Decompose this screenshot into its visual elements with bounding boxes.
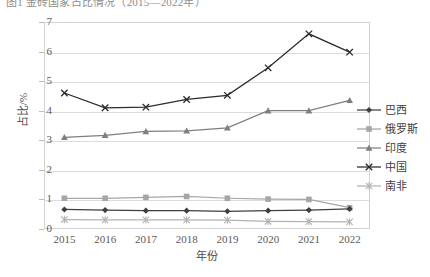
x-axis-tick-label: 2018 (165, 233, 209, 245)
data-point-cross (346, 49, 352, 55)
legend-swatch-asterisk (356, 179, 382, 193)
data-point-triangle (346, 97, 353, 103)
legend-swatch-square (356, 122, 382, 136)
data-point-square (143, 195, 149, 201)
legend: 巴西俄罗斯印度中国南非 (356, 100, 430, 195)
legend-item-巴西[interactable]: 巴西 (356, 100, 430, 119)
legend-item-中国[interactable]: 中国 (356, 157, 430, 176)
data-point-diamond (102, 207, 108, 213)
y-axis-tick-mark (39, 229, 44, 230)
x-axis-tick-label: 2016 (83, 233, 127, 245)
x-axis-tick-label: 2019 (205, 233, 249, 245)
data-point-square (225, 195, 231, 201)
chart-container: 图1 金砖国家占比情况（2015—2022年） 01234567 2015201… (0, 0, 430, 277)
x-axis-tick-label: 2015 (42, 233, 86, 245)
series-南非 (61, 216, 353, 226)
data-point-diamond (184, 208, 190, 214)
data-point-diamond (265, 208, 271, 214)
data-point-cross (61, 90, 67, 96)
x-axis-tick-label: 2017 (124, 233, 168, 245)
data-point-diamond (143, 208, 149, 214)
legend-swatch-triangle (356, 141, 382, 155)
data-point-cross (306, 31, 312, 37)
legend-item-南非[interactable]: 南非 (356, 176, 430, 195)
y-axis-title: 占比/% (17, 65, 29, 155)
legend-item-俄罗斯[interactable]: 俄罗斯 (356, 119, 430, 138)
legend-swatch-cross (356, 160, 382, 174)
series-巴西 (61, 206, 352, 215)
x-axis-title: 年份 (44, 250, 370, 262)
series-中国 (61, 31, 353, 111)
series-印度 (61, 97, 353, 140)
legend-label: 巴西 (385, 104, 407, 116)
series-layer (44, 22, 370, 229)
x-axis-tick-label: 2021 (287, 233, 331, 245)
legend-swatch-diamond (356, 103, 382, 117)
figure-caption: 图1 金砖国家占比情况（2015—2022年） (6, 0, 266, 9)
data-point-cross (265, 65, 271, 71)
legend-label: 俄罗斯 (385, 123, 418, 135)
legend-label: 中国 (385, 161, 407, 173)
data-point-square (366, 126, 372, 132)
legend-item-印度[interactable]: 印度 (356, 138, 430, 157)
data-point-diamond (61, 206, 67, 212)
data-point-diamond (306, 207, 312, 213)
x-axis-tick-label: 2022 (328, 233, 372, 245)
series-line (64, 34, 349, 108)
data-point-square (306, 197, 312, 203)
data-point-square (102, 195, 108, 201)
legend-label: 印度 (385, 142, 407, 154)
data-point-square (184, 194, 190, 200)
data-point-square (265, 196, 271, 202)
x-axis-tick-label: 2020 (246, 233, 290, 245)
data-point-square (62, 195, 68, 201)
data-point-diamond (366, 106, 372, 112)
data-point-diamond (224, 208, 230, 214)
legend-label: 南非 (385, 180, 407, 192)
